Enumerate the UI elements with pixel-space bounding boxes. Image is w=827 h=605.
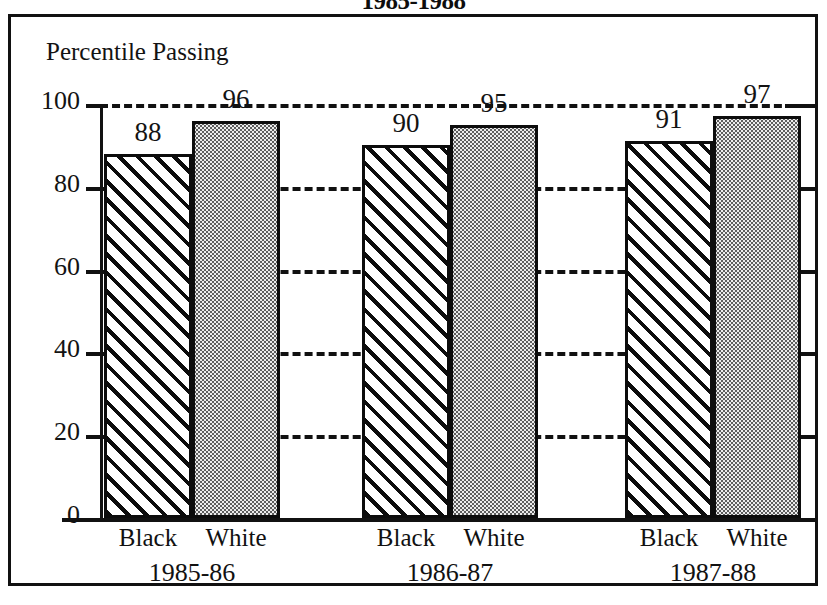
figure-frame <box>8 14 818 586</box>
y-axis-caption: Percentile Passing <box>46 38 229 66</box>
chart-title: 1985-1988 <box>0 0 827 15</box>
